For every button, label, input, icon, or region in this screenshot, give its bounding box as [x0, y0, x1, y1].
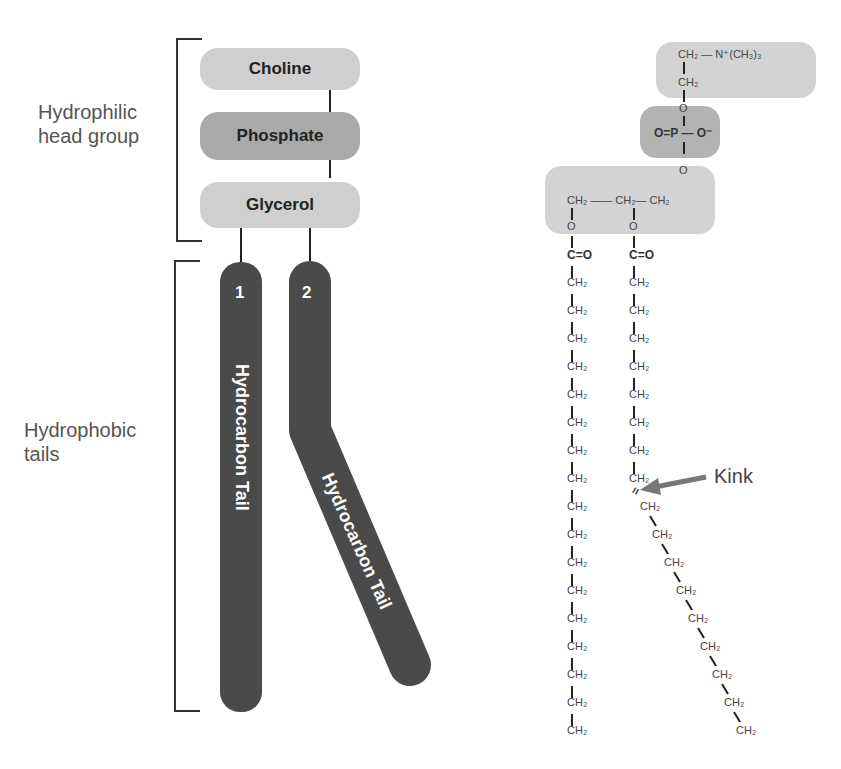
ch2-unit: CH₂ [567, 332, 587, 344]
ch2-unit: CH₂ [724, 696, 744, 708]
ch2-unit: CH₂ [567, 444, 587, 456]
oxygen-1: O [679, 102, 688, 114]
ch2-unit: CH₂ [629, 472, 649, 484]
ch2-unit: CH₂ [567, 416, 587, 428]
ch2-unit: CH₂ [567, 556, 587, 568]
ch2-unit: CH₂ [700, 640, 720, 652]
choline-formula-ch2: CH₂ [678, 76, 698, 88]
ch2-unit: CH₂ [567, 276, 587, 288]
bond [683, 90, 685, 102]
bond [683, 62, 685, 74]
ch2-unit: CH₂ [712, 668, 732, 680]
ch2-unit: CH₂ [629, 416, 649, 428]
ch2-unit: CH₂ [629, 304, 649, 316]
ch2-unit: CH₂ [640, 500, 660, 512]
bond [633, 208, 635, 220]
ch2-unit: CH₂ [664, 556, 684, 568]
ester-oxygen-left: O [567, 220, 576, 232]
choline-formula-top: CH₂ — N⁺(CH₃)₃ [678, 48, 761, 61]
carbonyl-right: C=O [629, 248, 654, 262]
bond [683, 142, 685, 154]
ch2-unit: CH₂ [567, 360, 587, 372]
ester-oxygen-right: O [629, 220, 638, 232]
ch2-unit: CH₂ [567, 472, 587, 484]
ch2-unit: CH₂ [736, 724, 756, 736]
ch2-unit: CH₂ [567, 724, 587, 736]
ch2-unit: CH₂ [567, 640, 587, 652]
ch2-unit: CH₂ [567, 304, 587, 316]
ch2-unit: CH₂ [629, 332, 649, 344]
ch2-unit: CH₂ [652, 528, 672, 540]
glycerol-formula: CH₂ —— CH₂— CH₂ [567, 194, 670, 206]
ch2-unit: CH₂ [629, 276, 649, 288]
ch2-unit: CH₂ [567, 668, 587, 680]
ch2-unit: CH₂ [567, 500, 587, 512]
bond [683, 116, 685, 126]
tail-2-number: 2 [302, 283, 311, 303]
phosphate-formula: O=P — O⁻ [654, 126, 712, 140]
ch2-unit: CH₂ [688, 612, 708, 624]
ch2-unit: CH₂ [567, 612, 587, 624]
ch2-unit: CH₂ [567, 388, 587, 400]
ch2-unit: CH₂ [567, 696, 587, 708]
ch2-unit: CH₂ [629, 444, 649, 456]
bond [571, 208, 573, 220]
ch2-unit: CH₂ [676, 584, 696, 596]
phospholipid-diagram: Hydrophilic head group Hydrophobic tails… [0, 0, 841, 769]
ch2-unit: CH₂ [629, 388, 649, 400]
oxygen-2: O [679, 164, 688, 176]
ch2-unit: CH₂ [567, 584, 587, 596]
carbonyl-left: C=O [567, 248, 592, 262]
ch2-unit: CH₂ [567, 528, 587, 540]
ch2-unit: CH₂ [629, 360, 649, 372]
kink-label: Kink [714, 464, 753, 488]
